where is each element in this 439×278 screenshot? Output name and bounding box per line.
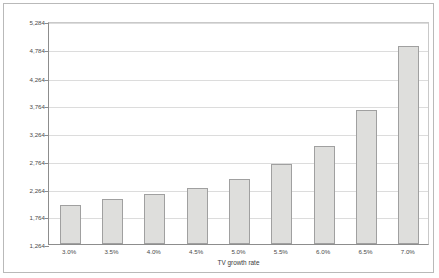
plot-area <box>48 22 429 245</box>
y-axis-tick <box>45 107 49 108</box>
x-axis-labels: 3.0%3.5%4.0%4.5%5.0%5.5%6.0%6.5%7.0% <box>48 247 429 259</box>
chart-frame: 1,2641,7642,2642,7643,2643,7644,2644,784… <box>3 3 434 273</box>
y-axis-tick-label: 4,264 <box>5 75 45 82</box>
y-gridline <box>49 107 428 108</box>
y-axis-tick <box>45 191 49 192</box>
y-axis-tick-label: 1,264 <box>5 242 45 249</box>
y-axis-labels: 1,2641,7642,2642,7643,2643,7644,2644,784… <box>4 22 45 245</box>
y-gridline <box>49 51 428 52</box>
y-gridline <box>49 23 428 24</box>
y-axis-tick-label: 4,784 <box>5 46 45 53</box>
x-axis-tick-label: 7.0% <box>401 247 415 256</box>
x-axis-tick-label: 3.0% <box>62 247 76 256</box>
x-axis-tick-label: 5.0% <box>231 247 245 256</box>
x-axis-tick-label: 6.5% <box>358 247 372 256</box>
y-axis-tick <box>45 51 49 52</box>
bar <box>102 199 123 244</box>
y-gridline <box>49 80 428 81</box>
bar <box>398 46 419 244</box>
x-axis-tick-label: 4.5% <box>189 247 203 256</box>
y-axis-tick-label: 2,764 <box>5 158 45 165</box>
x-axis-title: TV growth rate <box>48 259 429 266</box>
y-axis-tick <box>45 163 49 164</box>
x-axis-tick-label: 5.5% <box>274 247 288 256</box>
y-axis-tick <box>45 135 49 136</box>
y-axis-tick <box>45 23 49 24</box>
y-axis-tick-label: 5,284 <box>5 19 45 26</box>
y-axis-tick-label: 2,264 <box>5 186 45 193</box>
y-axis-tick <box>45 218 49 219</box>
y-axis-tick-label: 3,264 <box>5 131 45 138</box>
bar <box>356 110 377 244</box>
y-axis-tick-label: 1,764 <box>5 214 45 221</box>
y-axis-tick <box>45 80 49 81</box>
x-axis-tick-label: 4.0% <box>147 247 161 256</box>
bar <box>271 164 292 244</box>
bar <box>187 188 208 244</box>
bar <box>144 194 165 244</box>
bar <box>314 146 335 244</box>
bar <box>60 205 81 244</box>
y-axis-tick-label: 3,764 <box>5 103 45 110</box>
x-axis-tick-label: 3.5% <box>104 247 118 256</box>
x-axis-tick-label: 6.0% <box>316 247 330 256</box>
bar <box>229 179 250 244</box>
